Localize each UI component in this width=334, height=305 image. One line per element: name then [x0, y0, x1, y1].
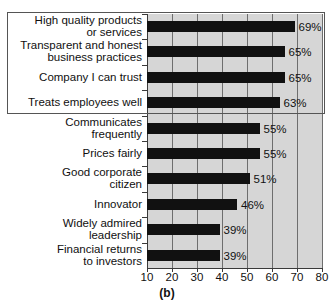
bar	[147, 199, 237, 210]
bar-row: High quality productsor services69%	[0, 14, 334, 39]
bar	[147, 46, 285, 57]
x-axis-tick-label: 50	[235, 271, 259, 284]
bar-category-label: Communicatesfrequently	[4, 116, 142, 140]
bar	[147, 123, 260, 134]
bar-value-label: 55%	[264, 149, 287, 160]
bar-rows: High quality productsor services69%Trans…	[0, 0, 334, 305]
bar-row: Widely admiredleadership39%	[0, 217, 334, 242]
bar-row: Company I can trust65%	[0, 65, 334, 90]
bar	[147, 21, 295, 32]
x-axis-tick-label: 10	[135, 271, 159, 284]
bar-category-label-line: Communicates	[4, 116, 142, 128]
bar-category-label-line: Widely admired	[4, 217, 142, 229]
y-axis-tick	[142, 39, 147, 40]
bar-category-label-line: to investors	[4, 255, 142, 267]
bar-category-label-line: High quality products	[4, 14, 142, 26]
x-axis-tick-label: 80	[310, 271, 334, 284]
y-axis-tick	[142, 166, 147, 167]
bar-category-label-line: Financial returns	[4, 243, 142, 255]
bar-category-label-line: or services	[4, 26, 142, 38]
bar-category-label: Widely admiredleadership	[4, 217, 142, 241]
bar	[147, 250, 220, 261]
x-axis-tick-label: 20	[160, 271, 184, 284]
y-axis-tick	[142, 217, 147, 218]
x-axis-tick-label: 70	[285, 271, 309, 284]
bar-value-label: 46%	[241, 200, 264, 211]
bar	[147, 72, 285, 83]
bar-category-label: High quality productsor services	[4, 14, 142, 38]
bar-value-label: 69%	[299, 22, 322, 33]
figure-caption: (b)	[0, 286, 334, 300]
bar-value-label: 51%	[254, 174, 277, 185]
bar-chart: High quality productsor services69%Trans…	[0, 0, 334, 305]
x-axis-tick-label: 60	[260, 271, 284, 284]
bar-category-label-line: leadership	[4, 229, 142, 241]
bar-category-label-line: citizen	[4, 178, 142, 190]
bar-value-label: 63%	[284, 98, 307, 109]
bar-category-label: Innovator	[4, 198, 142, 210]
bar-category-label-line: Transparent and honest	[4, 39, 142, 51]
x-axis-tick-label: 40	[210, 271, 234, 284]
y-axis-tick	[142, 65, 147, 66]
bar-category-label-line: Good corporate	[4, 166, 142, 178]
y-axis-tick	[142, 192, 147, 193]
x-axis-tick-label: 30	[185, 271, 209, 284]
bar-category-label: Transparent and honestbusiness practices	[4, 39, 142, 63]
bar-value-label: 39%	[224, 251, 247, 262]
y-axis-tick	[142, 141, 147, 142]
bar-category-label-line: frequently	[4, 128, 142, 140]
bar-category-label: Prices fairly	[4, 147, 142, 159]
bar-category-label: Good corporatecitizen	[4, 166, 142, 190]
bar	[147, 173, 250, 184]
bar-category-label: Treats employees well	[4, 96, 142, 108]
bar-category-label-line: business practices	[4, 51, 142, 63]
bar-value-label: 65%	[289, 47, 312, 58]
bar-row: Treats employees well63%	[0, 90, 334, 115]
bar-category-label-line: Company I can trust	[4, 71, 142, 83]
bar-row: Innovator46%	[0, 192, 334, 217]
bar-row: Transparent and honestbusiness practices…	[0, 39, 334, 64]
y-axis-tick	[142, 90, 147, 91]
bar	[147, 148, 260, 159]
bar-row: Prices fairly55%	[0, 141, 334, 166]
y-axis-tick	[142, 116, 147, 117]
bar-row: Communicatesfrequently55%	[0, 116, 334, 141]
bar-row: Financial returnsto investors39%	[0, 243, 334, 268]
y-axis-tick	[142, 243, 147, 244]
bar-category-label-line: Innovator	[4, 198, 142, 210]
bar	[147, 224, 220, 235]
bar-value-label: 65%	[289, 73, 312, 84]
bar-value-label: 55%	[264, 124, 287, 135]
bar-row: Good corporatecitizen51%	[0, 166, 334, 191]
bar-category-label: Financial returnsto investors	[4, 243, 142, 267]
bar-category-label-line: Treats employees well	[4, 96, 142, 108]
bar-category-label-line: Prices fairly	[4, 147, 142, 159]
bar	[147, 97, 280, 108]
bar-category-label: Company I can trust	[4, 71, 142, 83]
bar-value-label: 39%	[224, 225, 247, 236]
y-axis-tick	[142, 14, 147, 15]
